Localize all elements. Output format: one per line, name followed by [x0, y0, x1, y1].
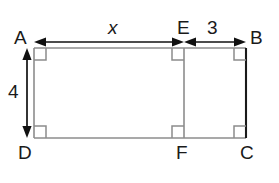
vertex-label-D: D [18, 143, 32, 162]
vertex-label-C: C [240, 143, 254, 162]
vertex-label-B: B [250, 28, 263, 47]
vertex-label-A: A [14, 28, 27, 47]
dimension-arrow-4 [22, 48, 31, 138]
right-angle-mark-A [34, 48, 46, 60]
geometry-diagram [0, 0, 279, 183]
right-angle-mark-E [172, 48, 184, 60]
dimension-label-x: x [108, 18, 118, 37]
dimension-arrow-x [34, 37, 184, 46]
dimension-arrow-3 [184, 37, 246, 46]
vertex-label-E: E [177, 18, 190, 37]
vertex-label-F: F [176, 143, 188, 162]
right-angle-mark-C [234, 126, 246, 138]
right-angle-mark-F [172, 126, 184, 138]
dimension-label-3: 3 [207, 18, 218, 37]
right-angle-mark-B [234, 48, 246, 60]
right-angle-mark-D [34, 126, 46, 138]
dimension-label-4: 4 [8, 82, 19, 101]
figure-canvas: A B C D E F x 3 4 [0, 0, 279, 183]
